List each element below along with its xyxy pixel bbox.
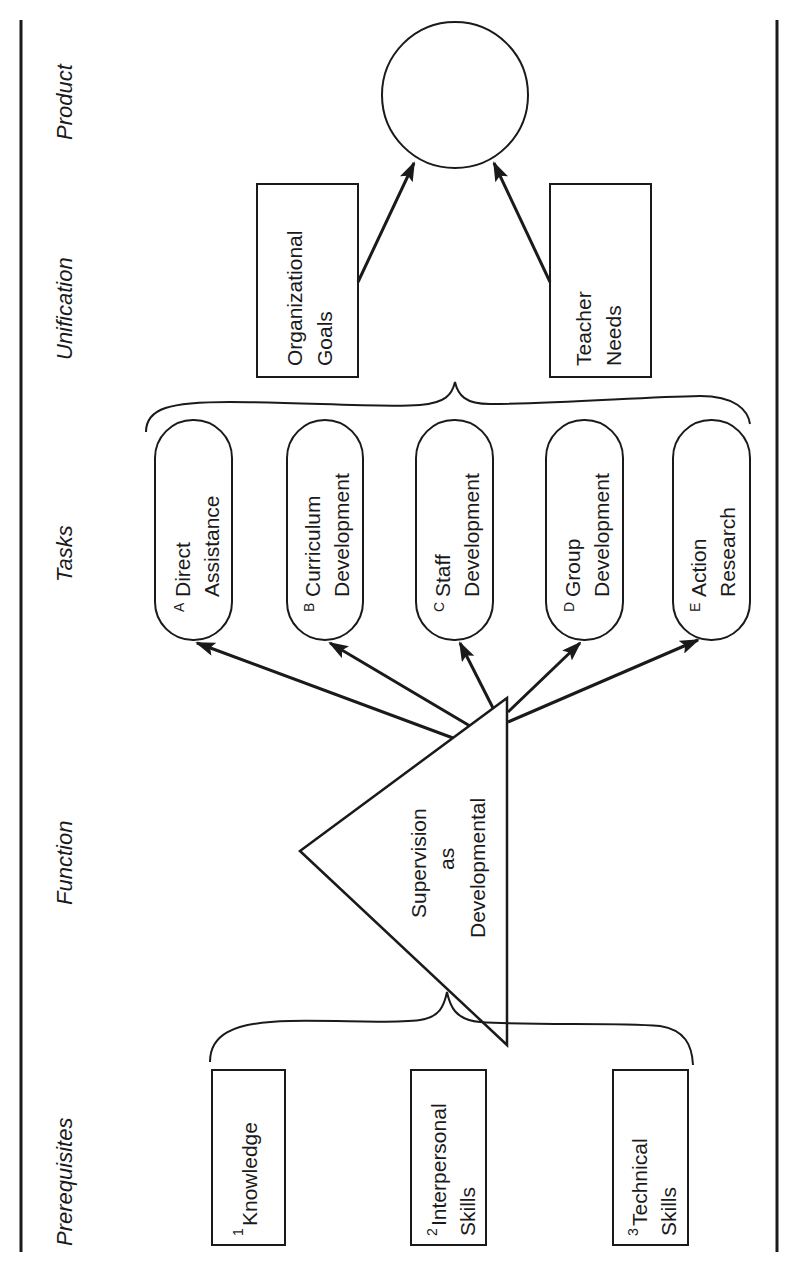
task-d-letter: D bbox=[561, 602, 577, 612]
task-c-line2: Development bbox=[460, 473, 483, 597]
header-product: Product bbox=[52, 63, 77, 140]
task-pill-e: E Action Research bbox=[673, 420, 750, 640]
prereq-2-line1: Interpersonal bbox=[427, 1103, 450, 1226]
prerequisite-box-knowledge: 1 Knowledge bbox=[212, 1070, 285, 1245]
prerequisite-box-technical: 3 Technical Skills bbox=[613, 1070, 688, 1245]
task-d-line2: Development bbox=[590, 473, 613, 597]
product-circle bbox=[382, 22, 528, 168]
task-a-letter: A bbox=[171, 602, 187, 612]
task-pill-a: A Direct Assistance bbox=[155, 420, 232, 640]
task-a-line2: Assistance bbox=[200, 495, 223, 597]
arrow-function-to-task-e bbox=[508, 640, 698, 722]
prerequisite-box-interpersonal: 2 Interpersonal Skills bbox=[411, 1070, 486, 1245]
arrow-function-to-task-c bbox=[460, 643, 494, 710]
task-a-line1: Direct bbox=[171, 542, 194, 597]
header-function: Function bbox=[52, 821, 77, 905]
task-pill-b: B Curriculum Development bbox=[287, 420, 363, 640]
prereq-2-number: 2 bbox=[424, 1228, 440, 1236]
teacher-needs-line2: Needs bbox=[602, 305, 625, 366]
prereq-2-line2: Skills bbox=[456, 1187, 479, 1236]
task-c-line1: Staff bbox=[431, 554, 454, 597]
task-pill-c: C Staff Development bbox=[416, 420, 493, 640]
tasks-brace bbox=[146, 382, 750, 432]
task-c-letter: C bbox=[431, 602, 447, 612]
task-e-line1: Action bbox=[687, 539, 710, 597]
task-e-line2: Research bbox=[716, 507, 739, 597]
teacher-needs-line1: Teacher bbox=[572, 291, 595, 366]
arrow-org-goals-to-product bbox=[358, 163, 414, 282]
arrow-teacher-needs-to-product bbox=[494, 163, 550, 282]
header-tasks: Tasks bbox=[52, 525, 77, 582]
prereq-3-number: 3 bbox=[625, 1228, 641, 1236]
developmental-supervision-diagram: Product Unification Tasks Function Prere… bbox=[0, 0, 792, 1266]
prereq-1-line1: Knowledge bbox=[238, 1122, 261, 1226]
prereq-3-line2: Skills bbox=[657, 1187, 680, 1236]
function-line3: Developmental bbox=[466, 798, 489, 938]
task-d-line1: Group bbox=[561, 539, 584, 597]
organizational-goals-line2: Goals bbox=[313, 311, 336, 366]
prereq-3-line1: Technical bbox=[628, 1138, 651, 1226]
task-b-line2: Development bbox=[330, 473, 353, 597]
teacher-needs-box: Teacher Needs bbox=[550, 184, 651, 377]
arrow-function-to-task-b bbox=[330, 643, 470, 726]
task-b-line1: Curriculum bbox=[301, 495, 324, 597]
task-e-letter: E bbox=[687, 603, 703, 612]
function-line2: as bbox=[435, 848, 458, 870]
function-triangle: Supervision as Developmental bbox=[300, 698, 507, 1045]
organizational-goals-line1: Organizational bbox=[283, 231, 306, 366]
arrow-function-to-task-d bbox=[508, 643, 580, 712]
task-b-letter: B bbox=[301, 603, 317, 612]
prerequisites-brace bbox=[210, 992, 693, 1065]
header-prerequisites: Prerequisites bbox=[52, 1118, 77, 1246]
header-unification: Unification bbox=[52, 257, 77, 360]
task-pill-d: D Group Development bbox=[546, 420, 623, 640]
arrow-function-to-task-a bbox=[197, 643, 453, 738]
organizational-goals-box: Organizational Goals bbox=[257, 184, 358, 377]
function-line1: Supervision bbox=[407, 808, 430, 918]
prereq-1-number: 1 bbox=[230, 1228, 246, 1236]
